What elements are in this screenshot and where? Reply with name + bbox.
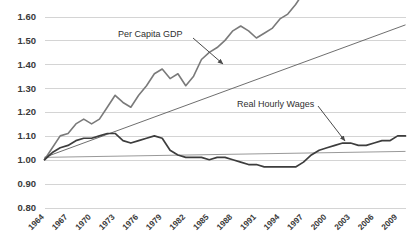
y-tick-label: 1.60 (18, 11, 37, 22)
annotations-group: Per Capita GDPReal Hourly Wages (118, 29, 345, 141)
x-tick-label: 1967 (50, 212, 70, 232)
line-chart: 0.800.901.001.101.201.301.401.501.60 196… (0, 0, 416, 247)
per-capita-gdp-annotation-label: Per Capita GDP (118, 29, 183, 39)
x-tick-label: 2009 (380, 212, 400, 232)
x-tick-label: 1994 (262, 212, 282, 232)
y-tick-label: 0.80 (18, 202, 37, 213)
x-tick-label: 1991 (239, 212, 259, 232)
real-hourly-wages-annotation-label: Real Hourly Wages (237, 99, 315, 109)
y-tick-label: 1.20 (18, 106, 37, 117)
x-tick-label: 2000 (309, 212, 329, 232)
y-axis-tick-labels: 0.800.901.001.101.201.301.401.501.60 (18, 11, 37, 213)
x-tick-label: 1985 (191, 212, 211, 232)
gridlines-group (45, 18, 406, 209)
x-tick-label: 1982 (168, 212, 188, 232)
series-line-real-hourly-wages (45, 133, 406, 166)
x-tick-label: 1997 (286, 212, 306, 232)
wages-trendline (45, 151, 406, 157)
chart-container: 0.800.901.001.101.201.301.401.501.60 196… (0, 0, 416, 247)
real-hourly-wages-annotation-arrow (318, 106, 345, 141)
y-tick-label: 1.00 (18, 154, 37, 165)
per-capita-gdp-annotation-arrow (193, 38, 223, 64)
x-axis-tick-labels: 1964196719701973197619791982198519881991… (27, 212, 400, 232)
y-tick-label: 1.50 (18, 35, 37, 46)
x-tick-label: 1973 (97, 212, 117, 232)
y-tick-label: 1.10 (18, 130, 37, 141)
x-tick-label: 1970 (74, 212, 94, 232)
y-tick-label: 1.30 (18, 83, 37, 94)
y-tick-label: 0.90 (18, 178, 37, 189)
x-tick-label: 1964 (27, 212, 47, 232)
x-tick-label: 1979 (144, 212, 164, 232)
x-tick-label: 2003 (333, 212, 353, 232)
y-tick-label: 1.40 (18, 59, 37, 70)
series-group (45, 0, 406, 167)
x-tick-label: 1988 (215, 212, 235, 232)
x-tick-label: 2006 (356, 212, 376, 232)
x-tick-label: 1976 (121, 212, 141, 232)
trendlines-group (45, 25, 406, 158)
gdp-trendline (45, 25, 406, 158)
